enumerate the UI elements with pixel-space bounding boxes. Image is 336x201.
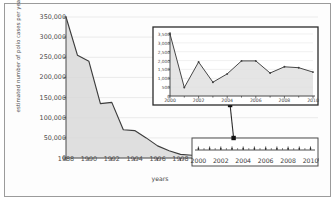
callout-data-marker xyxy=(242,148,244,150)
inset-y-axis-tick-label: 2,000 xyxy=(158,58,170,63)
callout-data-marker xyxy=(287,148,289,150)
callout-x-axis-tick-label: 2008 xyxy=(280,157,296,164)
inset-y-axis-tick-label: 1,500 xyxy=(158,67,170,72)
callout-data-marker xyxy=(254,148,256,150)
inset-y-axis-tick-label: 500 xyxy=(162,85,170,90)
callout-data-marker xyxy=(198,148,200,150)
inset-y-axis-tick-label: 1,000 xyxy=(158,76,170,81)
callout-leader-line xyxy=(230,105,234,138)
callout-x-axis-tick-labels: 200020022004200620082010 xyxy=(0,157,336,169)
y-axis-tick-label: 50,000 xyxy=(44,134,66,142)
inset-x-axis-tick-label: 2008 xyxy=(279,98,291,103)
callout-x-axis-tick-label: 2002 xyxy=(213,157,229,164)
y-axis-tick-label: 200,000 xyxy=(40,73,66,81)
inset-x-axis-tick-label: 2000 xyxy=(164,98,176,103)
inset-data-point-7 xyxy=(269,72,271,74)
y-axis-tick-label: 250,000 xyxy=(40,53,66,61)
inset-x-axis-tick-labels: 200020022004200620082010 xyxy=(0,98,336,108)
inset-data-point-3 xyxy=(212,81,214,83)
inset-x-axis-tick-label: 2010 xyxy=(307,98,319,103)
leader-anchor-callout xyxy=(231,136,235,140)
callout-data-marker xyxy=(231,148,233,150)
callout-data-marker xyxy=(265,148,267,150)
callout-x-axis-tick-label: 2006 xyxy=(258,157,274,164)
callout-x-axis-tick-label: 2000 xyxy=(191,157,207,164)
inset-data-point-1 xyxy=(183,87,185,89)
inset-data-point-2 xyxy=(198,61,200,63)
inset-x-axis-tick-label: 2002 xyxy=(193,98,205,103)
inset-data-point-5 xyxy=(241,60,243,62)
chart-stage: estimated number of polio cases per year… xyxy=(0,0,336,201)
callout-data-marker xyxy=(276,148,278,150)
inset-data-point-6 xyxy=(255,60,257,62)
callout-x-axis-tick-label: 2010 xyxy=(303,157,319,164)
callout-x-axis-tick-label: 2004 xyxy=(235,157,251,164)
y-axis-tick-label: 300,000 xyxy=(40,33,66,41)
callout-data-marker xyxy=(209,148,211,150)
callout-data-marker xyxy=(310,148,312,150)
y-axis-tick-label: 100,000 xyxy=(40,114,66,122)
inset-y-axis-tick-label: 3,500 xyxy=(158,32,170,37)
inset-y-axis-tick-label: 3,000 xyxy=(158,40,170,45)
inset-data-point-8 xyxy=(283,66,285,68)
callout-data-marker xyxy=(220,148,222,150)
inset-data-point-4 xyxy=(226,73,228,75)
inset-x-axis-tick-label: 2004 xyxy=(221,98,233,103)
inset-y-axis-tick-label: 2,500 xyxy=(158,49,170,54)
y-axis-tick-label: 350,000 xyxy=(40,13,66,21)
callout-data-marker xyxy=(298,148,300,150)
inset-data-point-9 xyxy=(298,67,300,69)
inset-data-point-10 xyxy=(312,71,314,73)
inset-x-axis-tick-label: 2006 xyxy=(250,98,262,103)
